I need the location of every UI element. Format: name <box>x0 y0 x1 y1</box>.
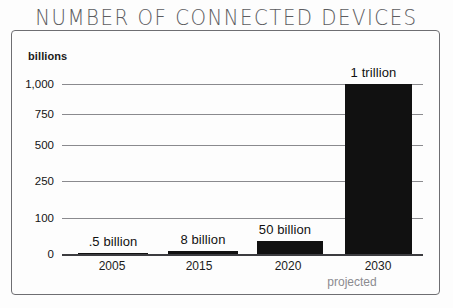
bar-value-label-2020: 50 billion <box>252 222 318 237</box>
bar-value-label-2030: 1 trillion <box>340 65 407 80</box>
bar-value-label-2005: .5 billion <box>78 234 148 249</box>
y-axis-tick-label: 1,000 <box>6 78 54 90</box>
x-axis-tick-label-2015: 2015 <box>159 259 239 273</box>
bar-2005 <box>78 253 148 254</box>
bar-2015 <box>168 251 238 254</box>
y-axis-unit-label: billions <box>28 50 67 62</box>
projected-annotation: projected <box>302 275 402 289</box>
y-axis-tick-label: 500 <box>6 139 54 151</box>
bar-2020 <box>257 241 323 254</box>
y-axis-tick-label: 0 <box>6 248 54 260</box>
y-axis-tick-label: 750 <box>6 108 54 120</box>
y-axis-tick-label: 100 <box>6 212 54 224</box>
x-axis-tick-label-2005: 2005 <box>72 259 152 273</box>
bar-value-label-2015: 8 billion <box>168 232 238 247</box>
gridline <box>62 254 423 256</box>
x-axis-tick-label-2030: 2030 <box>338 259 418 273</box>
chart-canvas: NUMBER OF CONNECTED DEVICES billions 1,0… <box>0 0 453 308</box>
x-axis-tick-label-2020: 2020 <box>248 259 328 273</box>
y-axis-tick-label: 250 <box>6 175 54 187</box>
chart-title: NUMBER OF CONNECTED DEVICES <box>14 6 440 30</box>
bar-2030 <box>345 84 412 254</box>
